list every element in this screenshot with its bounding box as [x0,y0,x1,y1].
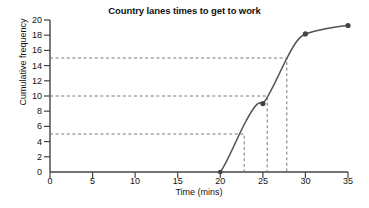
data-point-20-0 [218,170,223,175]
x-tick-marks [50,172,348,178]
data-point-35-19.8 [345,23,350,28]
plot-svg [0,0,369,208]
data-point-30-18.7 [303,31,308,36]
data-point-25-9 [260,101,265,106]
cumulative-frequency-curve [220,25,348,172]
y-tick-marks [44,20,50,157]
cumulative-frequency-chart: Country lanes times to get to work Cumul… [0,0,369,208]
construction-lines [50,58,287,172]
construction-line-upper-quartile [50,58,287,172]
construction-line-lower-quartile [50,134,244,172]
data-point-markers [218,23,351,174]
